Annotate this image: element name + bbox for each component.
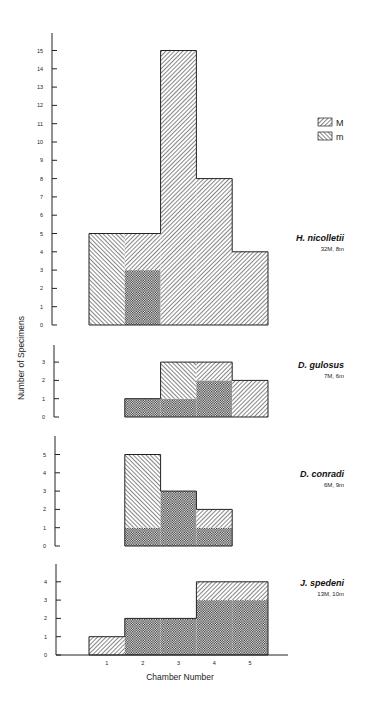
- y-tick-label: 2: [43, 506, 46, 512]
- bar-overlap: [125, 270, 161, 325]
- y-tick-label: 0: [43, 543, 46, 549]
- y-tick-label: 5: [43, 452, 46, 458]
- y-tick-label: 0: [42, 414, 45, 420]
- y-tick-label: 13: [37, 84, 43, 90]
- bar-M: [161, 51, 197, 326]
- panel-h-nicolletii: 0123456789101112131415H. nicolletii32M, …: [37, 33, 345, 328]
- y-tick-label: 2: [42, 377, 45, 383]
- y-tick-label: 5: [40, 231, 43, 237]
- bar-M: [89, 637, 125, 655]
- legend: M m: [318, 118, 344, 142]
- bar-overlap: [161, 618, 197, 655]
- bar-M: [232, 582, 268, 600]
- bar-m: [161, 362, 197, 399]
- bar-overlap: [161, 399, 197, 417]
- species-title: D. gulosus: [298, 360, 344, 370]
- y-tick-label: 9: [40, 157, 43, 163]
- y-tick-label: 4: [43, 470, 46, 476]
- species-counts: 32M, 8m: [321, 246, 344, 252]
- species-counts: 7M, 6m: [324, 373, 344, 379]
- species-counts: 13M, 10m: [317, 591, 344, 597]
- y-tick-label: 1: [44, 634, 47, 640]
- bar-M: [196, 179, 232, 325]
- species-title: D. conradi: [300, 469, 345, 479]
- y-tick-label: 4: [44, 579, 47, 585]
- y-tick-label: 7: [40, 194, 43, 200]
- y-tick-label: 11: [37, 121, 43, 127]
- y-tick-label: 3: [43, 488, 46, 494]
- y-tick-label: 0: [44, 652, 47, 658]
- y-tick-label: 2: [40, 285, 43, 291]
- species-counts: 6M, 9m: [324, 482, 344, 488]
- bar-m: [89, 234, 125, 326]
- y-tick-label: 3: [44, 597, 47, 603]
- y-tick-label: 1: [42, 396, 45, 402]
- y-tick-label: 6: [40, 212, 43, 218]
- bar-overlap: [232, 600, 268, 655]
- y-tick-label: 1: [43, 525, 46, 531]
- y-tick-label: 1: [40, 304, 43, 310]
- y-tick-label: 4: [40, 249, 43, 255]
- bar-overlap: [196, 528, 232, 546]
- legend-item-M: M: [318, 118, 344, 128]
- panel-j-spedeni: 0123412345J. spedeni13M, 10m: [44, 564, 345, 666]
- species-title: H. nicolletii: [296, 233, 345, 243]
- bar-overlap: [125, 528, 161, 546]
- y-tick-label: 14: [37, 66, 43, 72]
- x-tick-label: 2: [141, 660, 144, 666]
- legend-swatch-m: [318, 132, 332, 140]
- y-tick-label: 3: [42, 359, 45, 365]
- y-axis-title: Number of Specimens: [16, 316, 26, 400]
- y-tick-label: 0: [40, 322, 43, 328]
- bar-overlap: [125, 618, 161, 655]
- bar-overlap: [196, 380, 232, 417]
- panel-d-conradi: 012345D. conradi6M, 9m: [43, 436, 345, 549]
- species-title: J. spedeni: [300, 578, 345, 588]
- x-tick-label: 3: [177, 660, 180, 666]
- y-tick-label: 10: [37, 139, 43, 145]
- y-tick-label: 12: [37, 102, 43, 108]
- bar-overlap: [161, 491, 197, 546]
- bar-m: [125, 455, 161, 528]
- x-axis-title: Chamber Number: [146, 672, 214, 682]
- panel-d-gulosus: 0123D. gulosus7M, 6m: [42, 345, 344, 420]
- y-tick-label: 15: [37, 48, 43, 54]
- x-tick-label: 4: [213, 660, 216, 666]
- bar-overlap: [196, 600, 232, 655]
- y-tick-label: 8: [40, 176, 43, 182]
- legend-label-M: M: [336, 118, 344, 128]
- x-tick-label: 5: [249, 660, 252, 666]
- legend-swatch-M: [318, 118, 332, 126]
- y-tick-label: 2: [44, 615, 47, 621]
- bar-M: [232, 380, 268, 417]
- bar-M: [232, 252, 268, 325]
- y-tick-label: 3: [40, 267, 43, 273]
- bar-M: [196, 582, 232, 600]
- bar-M: [196, 509, 232, 527]
- legend-item-m: m: [318, 132, 344, 142]
- legend-label-m: m: [336, 132, 344, 142]
- figure: 0123456789101112131415H. nicolletii32M, …: [0, 0, 365, 704]
- bar-M: [196, 362, 232, 380]
- bar-M: [125, 234, 161, 271]
- x-tick-label: 1: [105, 660, 108, 666]
- bar-overlap: [125, 399, 161, 417]
